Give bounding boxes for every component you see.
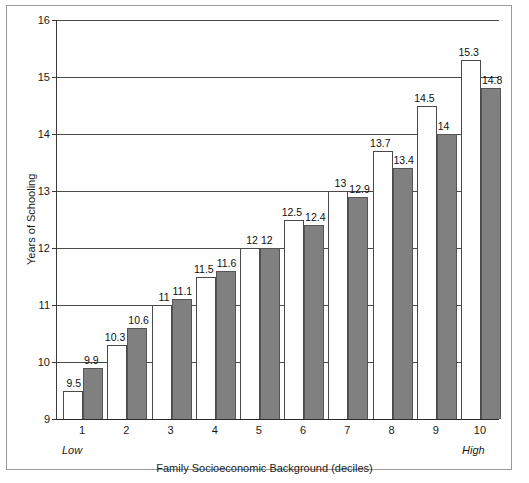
bar-value-label-white: 14.5 <box>405 93 435 104</box>
bar-gray[interactable] <box>348 197 368 419</box>
bar-white[interactable] <box>240 248 260 419</box>
bar-gray[interactable] <box>127 328 147 419</box>
bar-group: 13.713.4 <box>373 20 413 419</box>
bar-gray[interactable] <box>172 299 192 419</box>
y-tick-mark <box>52 134 57 135</box>
bar-value-label-gray: 11.1 <box>173 286 205 297</box>
y-tick-label: 13 <box>28 186 50 197</box>
y-tick-label: 11 <box>28 300 50 311</box>
gridline <box>57 419 499 420</box>
y-tick-mark <box>52 20 57 21</box>
x-axis-high-label: High <box>462 445 485 456</box>
bar-value-label-gray: 10.6 <box>128 315 160 326</box>
bar-value-label-gray: 14 <box>438 121 470 132</box>
bar-value-label-white: 15.3 <box>449 47 479 58</box>
y-tick-mark <box>52 362 57 363</box>
y-tick-label: 14 <box>28 129 50 140</box>
y-tick-mark <box>52 191 57 192</box>
bar-value-label-white: 13.7 <box>361 138 391 149</box>
bar-gray[interactable] <box>260 248 280 419</box>
bar-value-label-white: 11.5 <box>184 264 214 275</box>
bar-value-label-white: 10.3 <box>95 332 125 343</box>
x-axis-title: Family Socioeconomic Background (deciles… <box>0 462 529 474</box>
bar-value-label-gray: 12.4 <box>305 212 337 223</box>
bar-group: 11.511.6 <box>196 20 236 419</box>
bar-white[interactable] <box>284 220 304 420</box>
bar-white[interactable] <box>461 60 481 419</box>
bar-gray[interactable] <box>437 134 457 419</box>
bar-value-label-white: 12 <box>228 235 258 246</box>
bar-gray[interactable] <box>83 368 103 419</box>
chart-figure: Years of Schooling 910111213141516 9.59.… <box>0 0 529 483</box>
y-tick-label: 12 <box>28 243 50 254</box>
bar-group: 9.59.9 <box>63 20 103 419</box>
bar-gray[interactable] <box>216 271 236 419</box>
bar-white[interactable] <box>196 277 216 420</box>
x-tick-label: 10 <box>450 425 510 436</box>
bar-white[interactable] <box>417 106 437 420</box>
bar-group: 12.512.4 <box>284 20 324 419</box>
bar-value-label-white: 12.5 <box>272 207 302 218</box>
bar-value-label-white: 13 <box>316 178 346 189</box>
plot-area: 9.59.910.310.61111.111.511.6121212.512.4… <box>56 20 498 419</box>
bar-value-label-white: 11 <box>140 292 170 303</box>
bar-value-label-gray: 11.6 <box>217 258 249 269</box>
y-tick-mark <box>52 305 57 306</box>
bar-group: 1212 <box>240 20 280 419</box>
y-tick-mark <box>52 77 57 78</box>
y-tick-label: 16 <box>28 15 50 26</box>
y-tick-mark <box>52 419 57 420</box>
bar-value-label-gray: 14.8 <box>482 75 514 86</box>
y-tick-label: 9 <box>28 414 50 425</box>
bar-white[interactable] <box>63 391 83 420</box>
bar-gray[interactable] <box>481 88 501 419</box>
bar-group: 15.314.8 <box>461 20 501 419</box>
bar-gray[interactable] <box>304 225 324 419</box>
y-tick-label: 10 <box>28 357 50 368</box>
y-tick-mark <box>52 248 57 249</box>
x-axis-low-label: Low <box>62 445 82 456</box>
bar-group: 1111.1 <box>152 20 192 419</box>
bar-gray[interactable] <box>393 168 413 419</box>
bar-group: 14.514 <box>417 20 457 419</box>
bar-value-label-gray: 12.9 <box>349 184 381 195</box>
bar-value-label-gray: 12 <box>261 235 293 246</box>
bar-value-label-gray: 9.9 <box>84 355 116 366</box>
bar-value-label-gray: 13.4 <box>394 155 426 166</box>
bar-value-label-white: 9.5 <box>51 378 81 389</box>
bar-white[interactable] <box>328 191 348 419</box>
y-tick-label: 15 <box>28 72 50 83</box>
